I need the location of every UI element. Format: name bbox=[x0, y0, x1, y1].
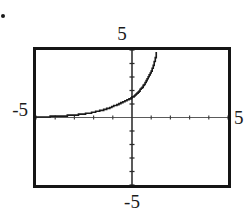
calculator-graph-screenshot: 5 -5 5 -5 bbox=[0, 0, 248, 218]
exponential-curve-path bbox=[36, 53, 156, 117]
axis-label-x-min: -5 bbox=[12, 100, 28, 119]
scan-artifact-dot bbox=[1, 14, 5, 18]
graph-plot-area bbox=[36, 50, 228, 185]
exponential-curve bbox=[36, 53, 156, 117]
axis-label-y-min: -5 bbox=[124, 192, 140, 211]
axis-label-y-max: 5 bbox=[117, 24, 127, 43]
graph-viewport bbox=[33, 47, 231, 188]
axes-group bbox=[36, 50, 228, 185]
axis-label-x-max: 5 bbox=[234, 108, 244, 127]
